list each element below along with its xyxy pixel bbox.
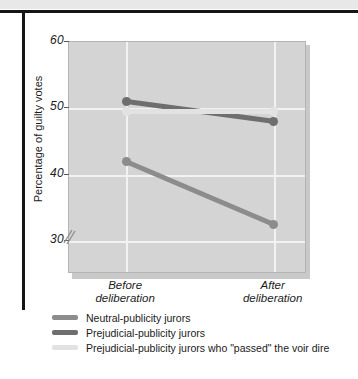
- x-tick-label-line: deliberation: [213, 292, 333, 305]
- gridline-horizontal: [69, 175, 305, 177]
- x-tick-label-line: After: [213, 279, 333, 292]
- legend-swatch: [52, 315, 78, 320]
- legend-item: Prejudicial-publicity jurors: [52, 325, 352, 340]
- chart-legend: Neutral-publicity jurorsPrejudicial-publ…: [52, 310, 352, 355]
- x-tick-label: Afterdeliberation: [213, 279, 333, 305]
- data-point-marker: [122, 97, 131, 106]
- legend-label: Prejudicial-publicity jurors who "passed…: [86, 342, 329, 354]
- series-line-1: [125, 159, 275, 227]
- plot-area: [68, 41, 306, 273]
- data-point-marker: [269, 220, 278, 229]
- gridline-horizontal: [69, 241, 305, 243]
- y-tick-label: 30: [24, 232, 64, 246]
- legend-item: Neutral-publicity jurors: [52, 310, 352, 325]
- x-tick-label-line: deliberation: [65, 292, 185, 305]
- series-line-3: [126, 109, 274, 114]
- legend-label: Prejudicial-publicity jurors: [86, 327, 205, 339]
- x-tick-label-line: Before: [65, 279, 185, 292]
- axis-break-icon: [62, 227, 76, 247]
- legend-swatch: [52, 330, 78, 335]
- y-tick-mark: [64, 41, 69, 42]
- y-tick-mark: [64, 107, 69, 108]
- data-point-marker: [122, 107, 131, 116]
- y-axis-label: Percentage of guilty votes: [32, 54, 44, 224]
- figure-root: 30405060 Percentage of guilty votes Befo…: [0, 0, 358, 379]
- line-chart: 30405060 Percentage of guilty votes Befo…: [0, 13, 358, 303]
- legend-label: Neutral-publicity jurors: [86, 312, 190, 324]
- y-tick-mark: [64, 174, 69, 175]
- y-tick-label: 50: [24, 99, 64, 113]
- gridline-vertical: [274, 42, 276, 272]
- y-tick-label: 40: [24, 166, 64, 180]
- data-point-marker: [269, 107, 278, 116]
- legend-swatch: [52, 345, 78, 350]
- y-tick-label: 60: [24, 33, 64, 47]
- top-caption-strip: [0, 0, 358, 9]
- data-point-marker: [122, 157, 131, 166]
- data-point-marker: [269, 117, 278, 126]
- legend-item: Prejudicial-publicity jurors who "passed…: [52, 340, 352, 355]
- x-tick-label: Beforedeliberation: [65, 279, 185, 305]
